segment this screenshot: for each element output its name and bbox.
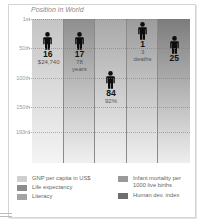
y-tick-label: 1st bbox=[12, 16, 30, 22]
legend-item-infant-mortality: Infant mortality per 1000 live births bbox=[118, 175, 181, 192]
chart-title: Position in World bbox=[31, 6, 84, 13]
gridline bbox=[29, 19, 190, 20]
legend-label: GNP per capita in US$ bbox=[32, 175, 91, 182]
y-tick-label: 150th bbox=[12, 104, 30, 110]
rank-marker: 13deaths bbox=[133, 22, 153, 63]
legend-label: Life expectancy bbox=[32, 184, 72, 191]
gridline bbox=[29, 78, 190, 79]
y-tick-label: 100th bbox=[12, 75, 30, 81]
value-line2: years bbox=[69, 66, 89, 73]
gridline bbox=[29, 48, 190, 49]
value-line1: 3 bbox=[133, 49, 153, 56]
rank-marker: 1778years bbox=[69, 32, 89, 73]
value-line1: 92% bbox=[101, 98, 121, 105]
rank-value: 17 bbox=[69, 50, 89, 59]
plot-area: 16$24,7401778years8492%13deaths25 bbox=[32, 19, 190, 163]
legend-item-gnp: GNP per capita in US$ bbox=[17, 175, 91, 184]
divider bbox=[0, 213, 12, 217]
legend-label: Human dev. index bbox=[133, 192, 179, 199]
column-5: 25 bbox=[158, 19, 190, 163]
column-1: 16$24,740 bbox=[32, 19, 64, 163]
legend-label: Literacy bbox=[32, 193, 52, 200]
legend-left: GNP per capita in US$ Life expectancy Li… bbox=[17, 175, 91, 202]
legend-item-life-expectancy: Life expectancy bbox=[17, 184, 91, 193]
rank-marker: 8492% bbox=[101, 71, 121, 105]
legend-item-literacy: Literacy bbox=[17, 193, 91, 202]
legend-label: Infant mortality per 1000 live births bbox=[133, 175, 181, 189]
rank-value: 25 bbox=[164, 54, 184, 63]
y-tick-label: 193rd bbox=[12, 129, 30, 135]
person-icon bbox=[170, 36, 179, 54]
rank-marker: 25 bbox=[164, 36, 184, 63]
person-icon bbox=[138, 22, 147, 40]
rank-marker: 16$24,740 bbox=[38, 32, 58, 66]
column-2: 1778years bbox=[64, 19, 96, 163]
value-line1: $24,740 bbox=[38, 59, 58, 66]
person-icon bbox=[106, 71, 115, 89]
value-line2: deaths bbox=[133, 56, 153, 63]
legend-swatch bbox=[118, 176, 128, 182]
rank-value: 84 bbox=[101, 89, 121, 98]
gridline bbox=[29, 132, 190, 133]
legend-label-line2: 1000 live births bbox=[133, 182, 172, 188]
legend-item-human-dev-index: Human dev. index bbox=[118, 192, 181, 201]
legend-swatch bbox=[118, 193, 128, 199]
legend-swatch bbox=[17, 176, 27, 182]
legend-swatch bbox=[17, 185, 27, 191]
column-4: 13deaths bbox=[127, 19, 159, 163]
y-tick-label: 50th bbox=[12, 45, 30, 51]
legend-right: Infant mortality per 1000 live births Hu… bbox=[118, 175, 181, 201]
legend-label-line1: Infant mortality per bbox=[133, 175, 181, 181]
value-line1: 78 bbox=[69, 59, 89, 66]
gridline bbox=[29, 107, 190, 108]
rank-value: 16 bbox=[38, 50, 58, 59]
column-3: 8492% bbox=[95, 19, 127, 163]
legend-swatch bbox=[17, 194, 27, 200]
